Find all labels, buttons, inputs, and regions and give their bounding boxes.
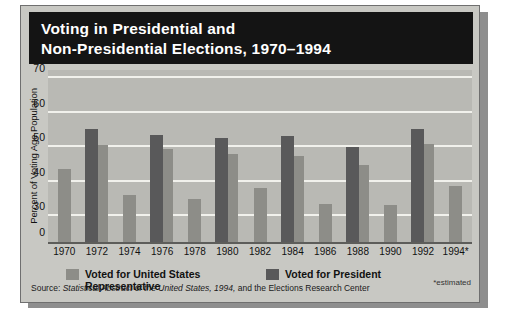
x-tick-1984: 1984	[281, 246, 303, 257]
x-tick-1988: 1988	[347, 246, 369, 257]
x-tick-1970: 1970	[53, 246, 75, 257]
x-tick-1974: 1974	[118, 246, 140, 257]
estimated-footnote: *estimated	[433, 278, 471, 287]
bar-house-1976	[163, 149, 173, 244]
legend-swatch-icon	[266, 269, 279, 280]
y-tick-40: 40	[33, 167, 45, 177]
bar-house-1986	[319, 204, 332, 244]
bar-house-1972	[98, 145, 108, 244]
x-tick-1978: 1978	[184, 246, 206, 257]
x-tick-1990: 1990	[379, 246, 401, 257]
bar-house-1988	[359, 165, 369, 244]
bar-house-1974	[123, 195, 136, 244]
x-tick-1982: 1982	[249, 246, 271, 257]
bar-house-1992	[424, 144, 434, 244]
y-tick-70: 70	[33, 63, 45, 73]
legend-swatch-icon	[66, 269, 79, 280]
y-tick-0: 0	[39, 227, 45, 237]
source-note: Source: Statistical Abstract of the Unit…	[31, 283, 370, 293]
bar-president-1976	[150, 135, 163, 244]
bar-house-1970	[58, 169, 71, 244]
bar-president-1988	[346, 147, 359, 244]
y-tick-50: 50	[33, 132, 45, 142]
y-axis-title: Percent of Voting Age Population	[28, 69, 42, 243]
gridline-60	[48, 111, 472, 113]
x-axis-baseline	[48, 242, 472, 244]
source-suffix: and the Elections Research Center	[238, 283, 370, 293]
source-prefix: Source:	[31, 283, 60, 293]
bar-president-1972	[85, 129, 98, 244]
bar-house-1980	[228, 154, 238, 244]
x-tick-1980: 1980	[216, 246, 238, 257]
gridline-50	[48, 145, 472, 147]
bar-house-1994*	[449, 186, 462, 244]
chart-title-line-1: Voting in Presidential and	[41, 19, 473, 39]
bar-president-1984	[281, 136, 294, 244]
plot-inner: 70605040300	[48, 70, 472, 244]
x-tick-1992: 1992	[412, 246, 434, 257]
y-tick-30: 30	[33, 201, 45, 211]
bar-house-1984	[294, 156, 304, 244]
gridline-70	[48, 76, 472, 78]
x-tick-1994: 1994*	[443, 246, 469, 257]
chart-figure: Voting in Presidential and Non-President…	[20, 5, 480, 303]
source-citation: Statistical Abstract of the United State…	[63, 283, 236, 293]
legend-label: Voted for President	[285, 268, 381, 280]
bar-house-1978	[188, 199, 201, 244]
plot-area: Percent of Voting Age Population 7060504…	[48, 70, 472, 244]
x-tick-1986: 1986	[314, 246, 336, 257]
bar-president-1992	[411, 129, 424, 244]
gridline-40	[48, 180, 472, 182]
x-tick-1972: 1972	[86, 246, 108, 257]
chart-title-line-2: Non-Presidential Elections, 1970–1994	[41, 39, 473, 59]
x-axis-tick-labels: 1970197219741976197819801982198419861988…	[48, 246, 472, 260]
bar-president-1980	[215, 138, 228, 244]
bar-house-1990	[384, 205, 397, 244]
chart-title-bar: Voting in Presidential and Non-President…	[29, 12, 473, 64]
y-tick-60: 60	[33, 98, 45, 108]
x-tick-1976: 1976	[151, 246, 173, 257]
bar-house-1982	[254, 188, 267, 244]
legend-item-president: Voted for President	[266, 268, 381, 280]
